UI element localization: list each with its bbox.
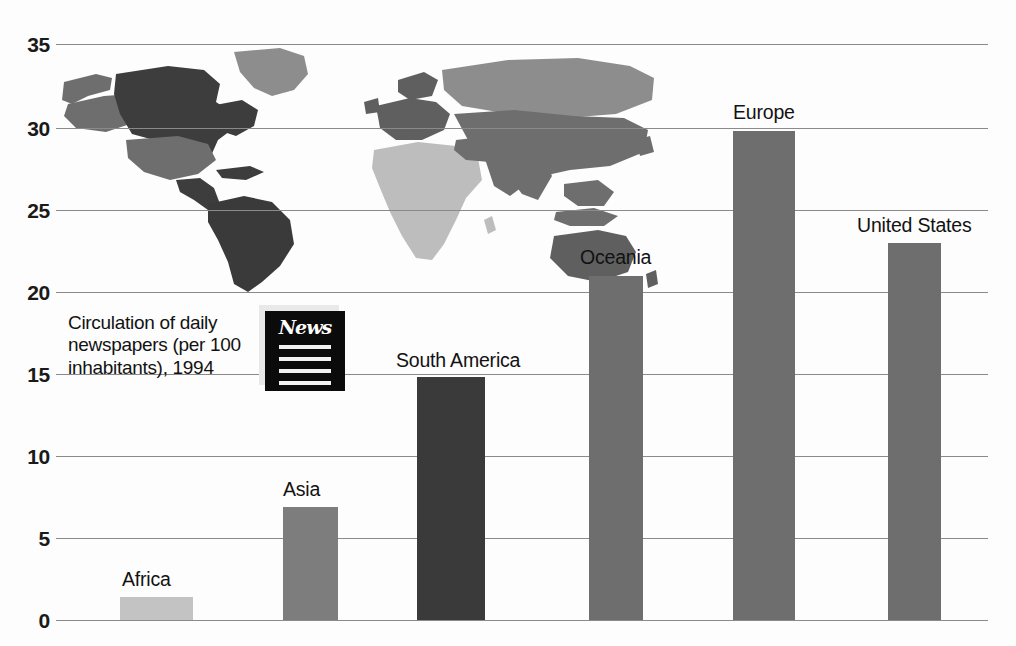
newspaper-icon: News (265, 311, 345, 391)
gridline-25 (56, 210, 988, 211)
bar-label-oceania: Oceania (580, 248, 651, 268)
bar-asia (283, 507, 338, 620)
newspaper-rule-1 (279, 345, 331, 349)
gridline-0-baseline (56, 620, 988, 621)
y-axis-tick-0: 0 (10, 610, 50, 631)
bar-label-asia: Asia (283, 480, 320, 500)
newspaper-masthead-text: News (265, 316, 345, 338)
y-axis-tick-35: 35 (10, 34, 50, 55)
bar-label-south-america: South America (396, 351, 520, 371)
bar-africa (120, 597, 193, 620)
y-axis-tick-20: 20 (10, 282, 50, 303)
chart-caption: Circulation of daily newspapers (per 100… (68, 312, 268, 379)
y-axis-tick-30: 30 (10, 118, 50, 139)
newspaper-rule-3 (279, 369, 331, 373)
bar-label-europe: Europe (733, 103, 795, 123)
bar-south-america (417, 377, 485, 620)
bar-oceania (589, 276, 643, 620)
y-axis-tick-10: 10 (10, 446, 50, 467)
bar-united-states (888, 243, 941, 620)
gridline-20 (56, 292, 988, 293)
bar-label-africa: Africa (122, 570, 171, 590)
bar-europe (733, 131, 795, 620)
y-axis-tick-15: 15 (10, 364, 50, 385)
y-axis-tick-5: 5 (10, 528, 50, 549)
newspaper-circulation-chart: 35 30 25 20 15 10 5 0 Circulation of dai… (0, 0, 1016, 646)
y-axis-tick-25: 25 (10, 200, 50, 221)
gridline-10 (56, 456, 988, 457)
caption-line-3: inhabitants), 1994 (68, 357, 268, 379)
gridline-30 (56, 128, 988, 129)
bar-label-united-states: United States (857, 216, 971, 236)
gridline-35 (56, 44, 988, 45)
gridline-5 (56, 538, 988, 539)
newspaper-rule-2 (279, 357, 331, 361)
caption-line-2: newspapers (per 100 (68, 334, 268, 356)
caption-line-1: Circulation of daily (68, 312, 268, 334)
newspaper-rule-4 (279, 381, 331, 385)
